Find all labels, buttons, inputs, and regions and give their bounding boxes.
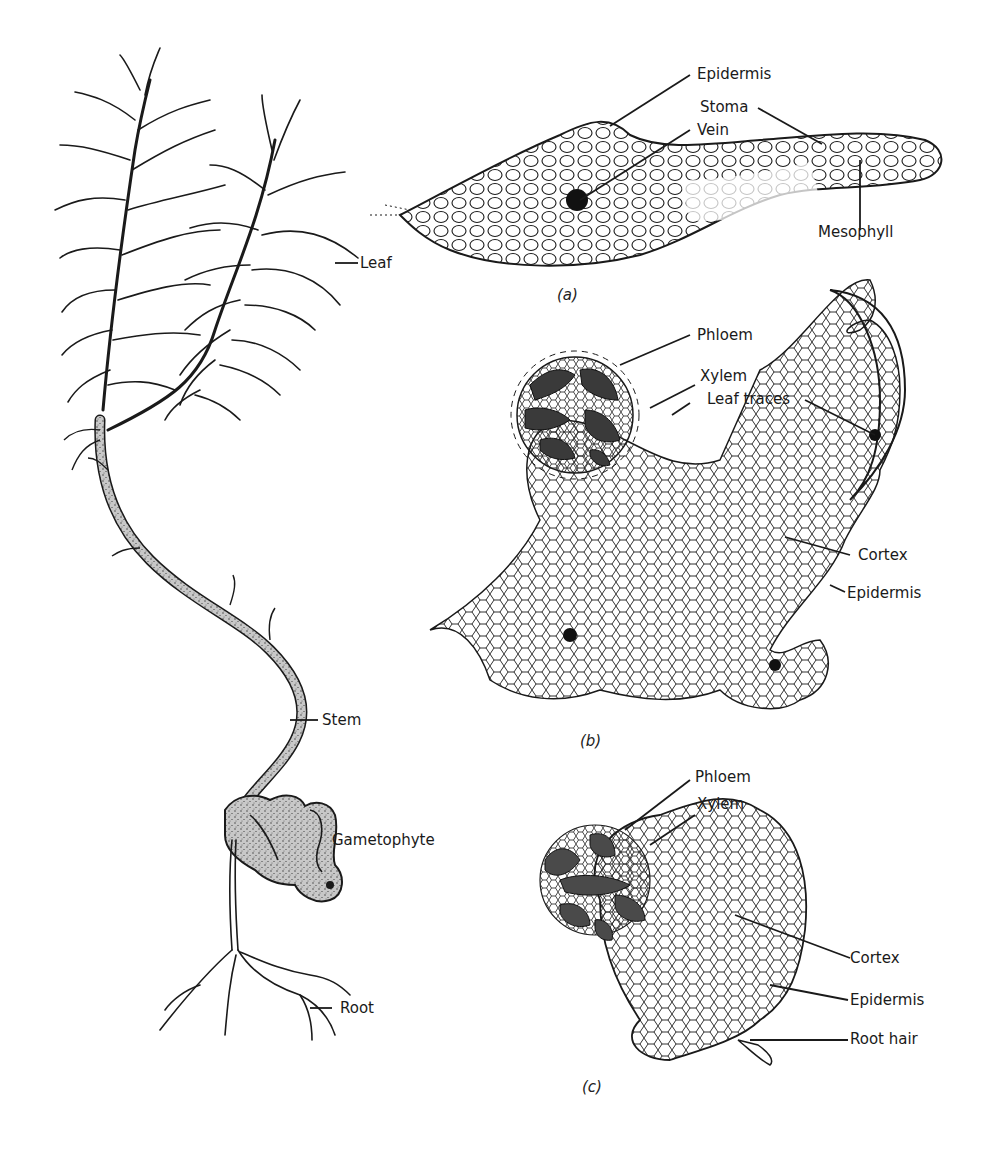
- label-c-cortex: Cortex: [850, 949, 900, 967]
- plant-stem: [100, 420, 302, 820]
- illustration-canvas: [0, 0, 990, 1166]
- label-a-stoma: Stoma: [700, 98, 748, 116]
- label-b-xylem: Xylem: [700, 367, 747, 385]
- label-c-xylem: Xylem: [697, 795, 744, 813]
- caption-a: (a): [557, 286, 578, 304]
- label-gametophyte: Gametophyte: [332, 831, 435, 849]
- label-root: Root: [340, 999, 374, 1017]
- label-b-epidermis: Epidermis: [847, 584, 921, 602]
- label-c-phloem: Phloem: [695, 768, 751, 786]
- label-stem: Stem: [322, 711, 361, 729]
- label-a-mesophyll: Mesophyll: [818, 223, 893, 241]
- label-b-cortex: Cortex: [858, 546, 908, 564]
- label-c-root-hair: Root hair: [850, 1030, 918, 1048]
- label-leaf: Leaf: [360, 254, 392, 272]
- label-b-phloem: Phloem: [697, 326, 753, 344]
- leaf-cross-section-drawing: [370, 122, 941, 266]
- label-a-vein: Vein: [697, 121, 729, 139]
- gametophyte-drawing: [225, 795, 342, 901]
- label-b-leaf-traces: Leaf traces: [707, 390, 790, 408]
- caption-c: (c): [582, 1078, 602, 1096]
- label-c-epidermis: Epidermis: [850, 991, 924, 1009]
- caption-b: (b): [580, 732, 601, 750]
- root-cross-section-drawing: [540, 799, 806, 1065]
- botanical-figure: Leaf Stem Gametophyte Root Epidermis Sto…: [0, 0, 990, 1166]
- label-a-epidermis: Epidermis: [697, 65, 771, 83]
- plant-shoot: [55, 48, 358, 430]
